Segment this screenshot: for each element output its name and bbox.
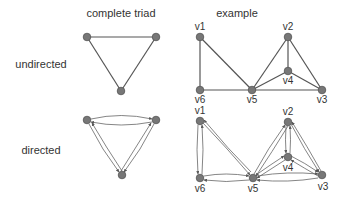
node-v1 xyxy=(196,33,204,41)
label-v6-directed: v6 xyxy=(195,183,206,194)
node-v3-directed xyxy=(318,171,326,179)
row-label-directed: directed xyxy=(21,144,60,156)
triad-node-right-directed xyxy=(152,116,160,124)
node-v6 xyxy=(196,86,204,94)
triad-node-right xyxy=(152,33,160,41)
label-v1: v1 xyxy=(195,21,206,32)
label-v2: v2 xyxy=(283,21,294,32)
node-v2-directed xyxy=(284,118,292,126)
node-v3 xyxy=(318,86,326,94)
undirected-triad xyxy=(83,33,160,95)
label-v5-directed: v5 xyxy=(248,183,259,194)
node-v6-directed xyxy=(196,174,204,182)
triad-node-bottom-directed xyxy=(118,171,126,179)
header-complete-triad: complete triad xyxy=(86,7,155,19)
label-v4-directed: v4 xyxy=(283,162,294,173)
node-v1-directed xyxy=(196,117,204,125)
node-v4-directed xyxy=(284,153,292,161)
label-v2-directed: v2 xyxy=(283,106,294,117)
label-v1-directed: v1 xyxy=(195,105,206,116)
header-example: example xyxy=(216,7,258,19)
undirected-example: v1 v2 v3 v4 v5 v6 xyxy=(195,21,328,105)
triad-node-left xyxy=(83,33,91,41)
triad-node-left-directed xyxy=(83,116,91,124)
node-v4 xyxy=(284,67,292,75)
label-v5: v5 xyxy=(247,94,258,105)
directed-triad xyxy=(83,116,160,179)
label-v3: v3 xyxy=(317,94,328,105)
label-v3-directed: v3 xyxy=(318,181,329,192)
label-v6: v6 xyxy=(195,94,206,105)
directed-example: v1 v2 v3 v4 v5 v6 xyxy=(195,105,329,194)
node-v2 xyxy=(284,33,292,41)
triad-node-bottom xyxy=(117,87,125,95)
label-v4: v4 xyxy=(283,75,294,86)
triad-diagram: complete triad example undirected direct… xyxy=(0,0,339,198)
row-label-undirected: undirected xyxy=(15,58,66,70)
node-v5 xyxy=(248,86,256,94)
node-v5-directed xyxy=(249,174,257,182)
